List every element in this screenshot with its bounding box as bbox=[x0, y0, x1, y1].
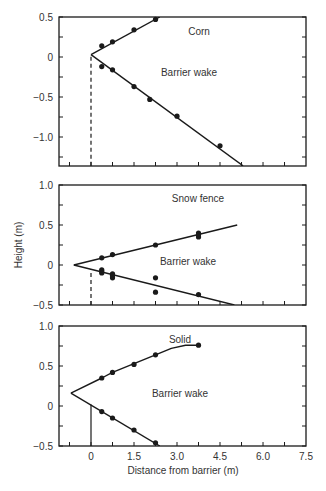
y-tick-label: −0.5 bbox=[33, 300, 53, 311]
data-point bbox=[110, 67, 115, 72]
data-point bbox=[147, 97, 152, 102]
y-tick-label: 0 bbox=[47, 260, 53, 271]
data-point bbox=[153, 242, 158, 247]
panel-corn: 0.50−0.5−1.0CornBarrier wake bbox=[33, 12, 306, 167]
data-point bbox=[196, 292, 201, 297]
data-point bbox=[110, 415, 115, 420]
data-point bbox=[131, 84, 136, 89]
data-point bbox=[99, 43, 104, 48]
lower-boundary-line bbox=[74, 265, 235, 305]
lower-boundary-line bbox=[71, 393, 160, 446]
data-point bbox=[99, 64, 104, 69]
y-tick-label: 1.0 bbox=[39, 321, 53, 332]
data-point bbox=[131, 362, 136, 367]
x-tick-label: 7.5 bbox=[299, 451, 313, 462]
data-point bbox=[99, 375, 104, 380]
data-point bbox=[110, 252, 115, 257]
data-point bbox=[99, 255, 104, 260]
x-axis-title: Distance from barrier (m) bbox=[127, 465, 238, 476]
data-point bbox=[217, 143, 222, 148]
panel-title: Solid bbox=[169, 334, 191, 345]
data-point bbox=[153, 275, 158, 280]
panel-solid: 1.00.50−0.501.53.04.56.07.5SolidBarrier … bbox=[33, 321, 313, 463]
y-tick-label: −0.5 bbox=[33, 92, 53, 103]
data-point bbox=[196, 343, 201, 348]
data-point bbox=[110, 39, 115, 44]
barrier-wake-label: Barrier wake bbox=[160, 256, 217, 267]
data-point bbox=[99, 409, 104, 414]
x-tick-label: 1.5 bbox=[127, 451, 141, 462]
data-point bbox=[131, 27, 136, 32]
y-tick-label: 0.5 bbox=[39, 220, 53, 231]
data-point bbox=[110, 275, 115, 280]
upper-boundary-line bbox=[71, 345, 199, 393]
data-point bbox=[131, 427, 136, 432]
barrier-wake-label: Barrier wake bbox=[152, 388, 209, 399]
y-tick-label: 0.5 bbox=[39, 12, 53, 23]
data-point bbox=[153, 352, 158, 357]
y-tick-label: 0 bbox=[47, 401, 53, 412]
panel-title: Snow fence bbox=[172, 193, 225, 204]
x-tick-label: 0 bbox=[88, 451, 94, 462]
data-point bbox=[153, 17, 158, 22]
barrier-wake-label: Barrier wake bbox=[161, 67, 218, 78]
data-point bbox=[174, 114, 179, 119]
y-tick-label: 0.5 bbox=[39, 361, 53, 372]
x-tick-label: 4.5 bbox=[213, 451, 227, 462]
y-axis-title: Height (m) bbox=[13, 222, 24, 269]
data-point bbox=[196, 230, 201, 235]
panel-snow-fence: 1.00.50−0.5Snow fenceBarrier wake bbox=[33, 180, 306, 311]
y-tick-label: −1.0 bbox=[33, 132, 53, 143]
panel-title: Corn bbox=[188, 26, 210, 37]
x-tick-label: 3.0 bbox=[170, 451, 184, 462]
plot-frame bbox=[59, 17, 306, 166]
data-point bbox=[153, 290, 158, 295]
y-tick-label: 1.0 bbox=[39, 180, 53, 191]
data-point bbox=[110, 370, 115, 375]
y-tick-label: −0.5 bbox=[33, 441, 53, 452]
data-point bbox=[99, 270, 104, 275]
barrier-wake-figure: 0.50−0.5−1.0CornBarrier wake 1.00.50−0.5… bbox=[0, 0, 326, 491]
x-tick-label: 6.0 bbox=[256, 451, 270, 462]
y-tick-label: 0 bbox=[47, 52, 53, 63]
upper-boundary-line bbox=[91, 17, 160, 55]
data-point bbox=[153, 440, 158, 445]
